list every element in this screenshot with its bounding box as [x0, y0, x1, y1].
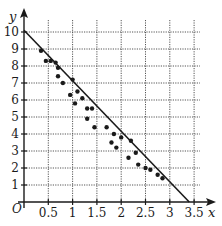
data-point [134, 151, 138, 155]
data-point [148, 168, 152, 172]
data-point [80, 96, 84, 100]
y-tick-label: 6 [11, 93, 19, 107]
data-point [129, 139, 133, 143]
scatter-chart: 0.511.522.533.512345678910 x y O [0, 0, 222, 226]
data-point [92, 125, 96, 129]
data-point [119, 135, 123, 139]
y-tick-label: 3 [11, 144, 19, 158]
data-point [73, 101, 77, 105]
y-tick-label: 2 [11, 161, 19, 175]
data-point [53, 60, 57, 64]
data-point [70, 77, 74, 81]
data-point [104, 125, 108, 129]
data-point [56, 74, 60, 78]
y-tick-label: 7 [11, 76, 19, 90]
y-axis-label: y [8, 9, 17, 24]
x-tick-label: 2 [117, 206, 125, 220]
data-point [49, 59, 53, 63]
data-point [44, 59, 48, 63]
grid-lines [24, 20, 200, 202]
data-point [68, 93, 72, 97]
data-point [112, 132, 116, 136]
tick-labels: 0.511.522.533.512345678910 [4, 25, 204, 220]
data-point [160, 176, 164, 180]
axes [18, 8, 216, 208]
data-point [143, 166, 147, 170]
x-tick-label: 0.5 [39, 206, 58, 220]
x-tick-label: 2.5 [136, 206, 155, 220]
origin-label: O [12, 202, 22, 216]
y-tick-label: 1 [11, 178, 19, 192]
data-point [90, 106, 94, 110]
data-point [39, 49, 43, 53]
data-point [85, 106, 89, 110]
x-tick-label: 3 [166, 206, 174, 220]
x-tick-label: 3.5 [185, 206, 204, 220]
data-point [56, 66, 60, 70]
data-point [114, 145, 118, 149]
y-tick-label: 10 [4, 25, 19, 39]
x-tick-label: 1.5 [87, 206, 106, 220]
data-point [155, 173, 159, 177]
y-tick-label: 9 [11, 42, 19, 56]
data-point [126, 156, 130, 160]
x-tick-label: 1 [69, 206, 77, 220]
data-point [109, 140, 113, 144]
x-axis-label: x [208, 205, 216, 220]
data-point [61, 81, 65, 85]
y-tick-label: 5 [11, 110, 19, 124]
data-point [136, 162, 140, 166]
y-tick-label: 8 [11, 59, 19, 73]
y-tick-label: 4 [11, 127, 19, 141]
data-point [85, 117, 89, 121]
data-point [75, 89, 79, 93]
